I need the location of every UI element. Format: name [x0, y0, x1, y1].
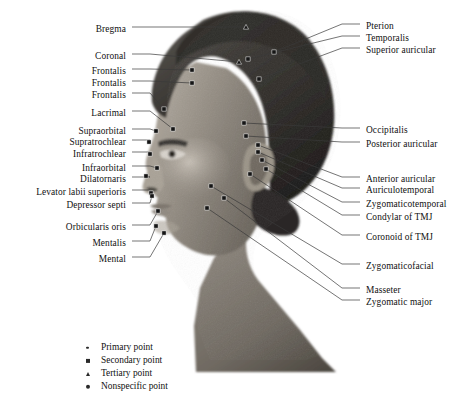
legend-item: Nonspecific point	[84, 380, 304, 393]
legend-item-label: Tertiary point	[101, 368, 152, 378]
landmark-point-posterior-auricular	[244, 134, 248, 138]
landmark-label-anterior-auricular: Anterior auricular	[366, 174, 435, 184]
landmark-label-frontalis: Frontalis	[92, 90, 126, 100]
landmark-label-depressor-septi: Depressor septi	[66, 200, 126, 210]
landmark-point-supraorbital	[154, 129, 158, 133]
landmark-label-pterion: Pterion	[366, 21, 394, 31]
landmark-label-dilatornaris: Dilatornaris	[80, 174, 126, 184]
landmark-label-zygomaticotemporal: Zygomaticotemporal	[366, 199, 446, 209]
landmark-label-zygomaticofacial: Zygomaticofacial	[366, 261, 434, 271]
landmark-label-mental: Mental	[99, 254, 126, 264]
landmark-point-frontalis	[190, 81, 194, 85]
landmark-point-zygomaticofacial	[209, 184, 213, 188]
legend-item: Primary point	[84, 341, 304, 354]
landmark-label-posterior-auricular: Posterior auricular	[366, 139, 437, 149]
landmark-label-occipitalis: Occipitalis	[366, 125, 408, 135]
landmark-point-infraorbital	[155, 166, 159, 170]
landmark-point-temporalis	[246, 57, 250, 61]
landmark-point-depressor-septi	[150, 194, 154, 198]
landmark-point-supratrochlear	[147, 140, 151, 144]
landmark-label-auriculotemporal: Auriculotemporal	[366, 185, 434, 195]
landmark-point-dilatornaris	[144, 174, 148, 178]
primary-point-icon	[86, 346, 89, 349]
landmark-label-coronoid-of-tmj: Coronoid of TMJ	[366, 232, 433, 242]
landmark-point-layer	[0, 0, 468, 395]
landmark-label-mentalis: Mentalis	[92, 238, 126, 248]
landmark-point-condylar-of-tmj	[264, 167, 268, 171]
landmark-label-supraorbital: Supraorbital	[78, 126, 126, 136]
landmark-point-infratrochlear	[148, 152, 152, 156]
nonspecific-point-icon	[86, 384, 90, 388]
landmark-point-auriculotemporal	[256, 150, 260, 154]
tertiary-point-icon	[86, 372, 90, 376]
landmark-label-levator-labii-superioris: Levator labii superioris	[36, 187, 126, 197]
landmark-point-pterion	[272, 50, 276, 54]
anatomical-landmark-figure: BregmaCoronalFrontalisFrontalisFrontalis…	[0, 0, 468, 395]
landmark-label-orbicularis-oris: Orbicularis oris	[66, 222, 126, 232]
landmark-label-coronal: Coronal	[95, 51, 126, 61]
legend-item: Tertiary point	[84, 367, 304, 380]
landmark-point-zygomaticotemporal	[260, 158, 264, 162]
landmark-label-condylar-of-tmj: Condylar of TMJ	[366, 212, 432, 222]
landmark-label-infratrochlear: Infratrochlear	[73, 149, 126, 159]
landmark-label-frontalis: Frontalis	[92, 78, 126, 88]
landmark-point-frontalis	[190, 68, 194, 72]
landmark-point-frontalis	[162, 107, 166, 111]
landmark-point-coronoid-of-tmj	[248, 172, 252, 176]
landmark-point-lacrimal	[171, 127, 175, 131]
secondary-point-icon	[86, 358, 90, 362]
landmark-point-bregma	[243, 24, 248, 29]
landmark-label-masseter: Masseter	[366, 285, 401, 295]
landmark-label-frontalis: Frontalis	[92, 66, 126, 76]
landmark-point-anterior-auricular	[256, 143, 260, 147]
landmark-point-occipitalis	[242, 121, 246, 125]
landmark-label-zygomatic-major: Zygomatic major	[366, 297, 432, 307]
landmark-point-superior-auricular	[257, 77, 261, 81]
landmark-label-lacrimal: Lacrimal	[91, 108, 126, 118]
legend-item-label: Nonspecific point	[101, 381, 168, 391]
landmark-label-superior-auricular: Superior auricular	[366, 45, 436, 55]
legend-item-label: Secondary point	[101, 355, 162, 365]
landmark-point-coronal	[236, 59, 241, 64]
legend-item-label: Primary point	[101, 342, 153, 352]
landmark-label-supratrochlear: Supratrochlear	[69, 137, 126, 147]
landmark-point-masseter	[222, 196, 226, 200]
landmark-point-zygomatic-major	[205, 206, 209, 210]
landmark-label-infraorbital: Infraorbital	[82, 163, 126, 173]
landmark-point-mental	[162, 231, 166, 235]
landmark-point-orbicularis-oris	[156, 209, 160, 213]
legend: Primary point Secondary point Tertiary p…	[84, 341, 304, 393]
landmark-label-bregma: Bregma	[96, 24, 126, 34]
landmark-point-mentalis	[154, 224, 158, 228]
landmark-label-temporalis: Temporalis	[366, 33, 409, 43]
legend-item: Secondary point	[84, 354, 304, 367]
